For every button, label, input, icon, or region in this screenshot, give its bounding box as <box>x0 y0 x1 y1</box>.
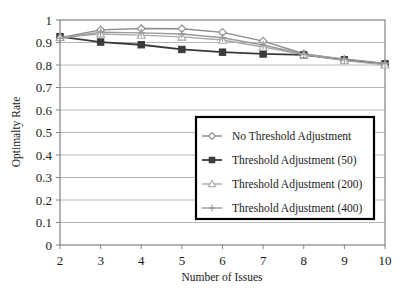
line-chart: 00.10.20.30.40.50.60.70.80.91 2345678910… <box>0 0 410 297</box>
chart-figure: 00.10.20.30.40.50.60.70.80.91 2345678910… <box>0 0 410 297</box>
x-tick-marks <box>60 245 385 249</box>
marker-square <box>138 42 144 48</box>
x-tick-label: 3 <box>97 253 104 268</box>
y-tick-label: 0.5 <box>36 125 52 140</box>
marker-square <box>97 39 103 45</box>
x-tick-label: 5 <box>179 253 186 268</box>
legend-label: No Threshold Adjustment <box>232 130 352 143</box>
x-tick-label: 6 <box>219 253 226 268</box>
marker-square <box>209 157 215 163</box>
x-tick-label: 9 <box>341 253 348 268</box>
data-point-square <box>179 46 185 52</box>
y-tick-labels: 00.10.20.30.40.50.60.70.80.91 <box>36 13 53 253</box>
x-tick-label: 7 <box>260 253 267 268</box>
data-point-square <box>138 42 144 48</box>
x-tick-label: 10 <box>379 253 392 268</box>
y-tick-label: 0.7 <box>36 80 53 95</box>
y-tick-label: 0.2 <box>36 193 52 208</box>
legend-label: Threshold Adjustment (50) <box>232 154 357 167</box>
y-tick-label: 0 <box>46 238 53 253</box>
y-tick-label: 0.6 <box>36 103 53 118</box>
y-tick-label: 0.4 <box>36 148 53 163</box>
y-tick-label: 0.1 <box>36 215 52 230</box>
x-axis-title: Number of Issues <box>181 271 263 283</box>
data-point-square <box>260 51 266 57</box>
x-tick-label: 4 <box>138 253 145 268</box>
x-tick-label: 8 <box>301 253 308 268</box>
y-axis-title: Optimalty Rate <box>10 97 23 168</box>
y-tick-label: 1 <box>46 13 53 28</box>
legend-label: Threshold Adjustment (200) <box>232 178 362 191</box>
marker-square <box>219 49 225 55</box>
marker-square <box>260 51 266 57</box>
y-tick-label: 0.9 <box>36 35 52 50</box>
chart-legend: No Threshold AdjustmentThreshold Adjustm… <box>196 117 374 219</box>
marker-square <box>179 46 185 52</box>
legend-label: Threshold Adjustment (400) <box>232 202 362 215</box>
x-tick-labels: 2345678910 <box>57 253 392 268</box>
y-tick-label: 0.8 <box>36 58 52 73</box>
data-point-square <box>209 157 215 163</box>
y-tick-label: 0.3 <box>36 170 52 185</box>
data-point-square <box>97 39 103 45</box>
x-tick-label: 2 <box>57 253 64 268</box>
data-point-square <box>219 49 225 55</box>
